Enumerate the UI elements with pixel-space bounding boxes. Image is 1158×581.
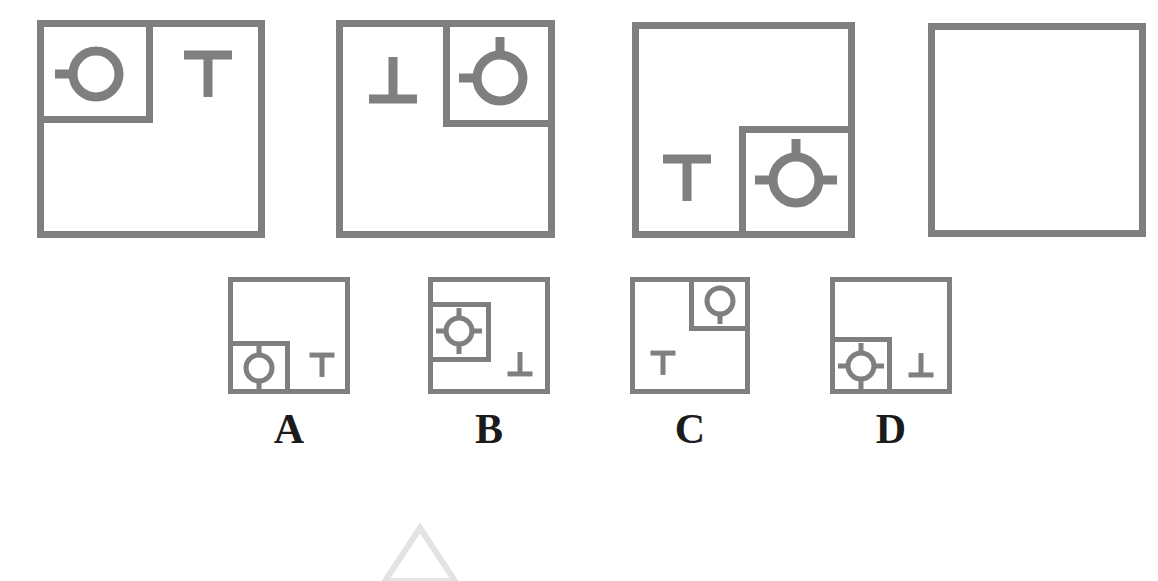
panel-4-outer-square	[932, 27, 1143, 234]
panel-1[interactable]	[41, 24, 262, 235]
option-d[interactable]	[833, 280, 950, 392]
panel-3-tee-icon	[663, 159, 711, 201]
options-row	[0, 260, 1158, 410]
panel-2-circle-icon-ring	[477, 55, 523, 101]
watermark-triangle	[385, 528, 455, 581]
option-c-circle-icon-ring	[707, 288, 733, 314]
option-label-d[interactable]: D	[851, 408, 931, 450]
panel-1-circle-icon-ring	[73, 51, 119, 97]
option-b-circle-icon-ring	[446, 318, 472, 344]
panel-1-circle-icon	[55, 51, 119, 97]
option-label-c[interactable]: C	[650, 408, 730, 450]
option-label-b[interactable]: B	[449, 408, 529, 450]
option-a-circle-icon-ring	[246, 355, 272, 381]
option-c-circle-icon	[707, 288, 733, 324]
panel-3-circle-icon-ring	[773, 157, 819, 203]
puzzle-canvas: A B C D	[0, 0, 1158, 581]
panel-1-tee-icon	[184, 55, 232, 97]
option-a-tee-icon	[310, 355, 335, 377]
option-d-tee-icon	[909, 353, 934, 375]
option-d-circle-icon	[838, 343, 884, 389]
option-d-circle-icon-ring	[848, 353, 874, 379]
option-a-circle-icon	[246, 345, 272, 391]
panel-2[interactable]	[340, 24, 552, 235]
panel-3[interactable]	[636, 26, 852, 235]
panel-4[interactable]	[932, 27, 1143, 234]
panel-2-tee-icon	[369, 57, 417, 99]
panel-2-circle-icon	[459, 37, 523, 101]
option-b-tee-icon	[508, 352, 533, 374]
option-label-a[interactable]: A	[249, 408, 329, 450]
option-b[interactable]	[431, 280, 548, 392]
option-b-circle-icon	[436, 308, 482, 354]
panel-3-circle-icon	[755, 139, 837, 203]
option-a[interactable]	[231, 280, 348, 392]
option-c[interactable]	[633, 280, 748, 392]
sequence-row	[0, 0, 1158, 260]
option-c-tee-icon	[651, 353, 676, 375]
